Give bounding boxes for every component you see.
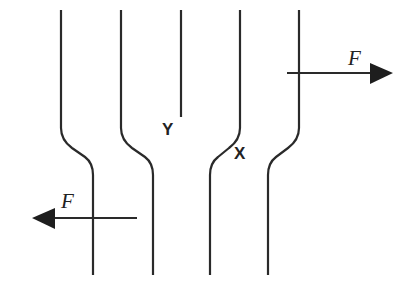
strand-line-2 xyxy=(121,10,153,275)
strand-line-4 xyxy=(210,10,240,275)
force-label-bottom: F xyxy=(61,191,74,212)
point-label-y: Y xyxy=(162,121,173,138)
dislocation-diagram xyxy=(0,0,413,295)
force-arrow-left xyxy=(32,208,137,229)
force-arrow-right xyxy=(287,63,393,84)
point-label-x: X xyxy=(234,145,245,162)
strand-line-1 xyxy=(61,10,93,275)
strand-line-5 xyxy=(268,10,299,275)
arrowhead-left-icon xyxy=(32,208,55,229)
arrowhead-right-icon xyxy=(370,63,393,84)
force-label-top: F xyxy=(348,48,361,69)
